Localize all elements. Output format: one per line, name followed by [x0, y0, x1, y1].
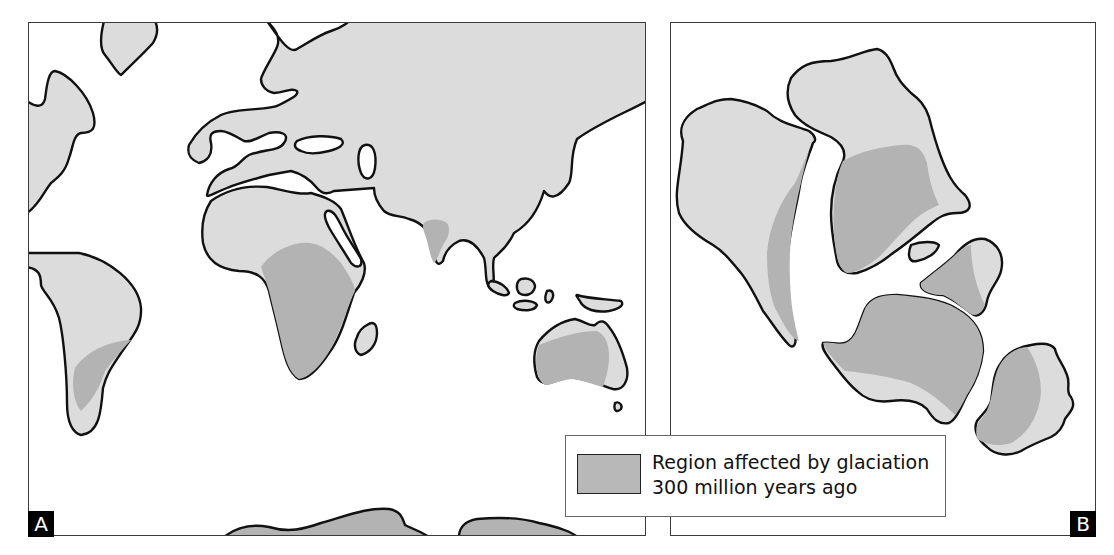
island-java	[514, 301, 537, 310]
tasmania	[614, 402, 621, 411]
greenland	[101, 23, 157, 75]
legend-line-1: Region affected by glaciation	[652, 450, 929, 475]
legend: Region affected by glaciation 300 millio…	[565, 435, 946, 517]
gondwana-madagascar	[909, 242, 939, 261]
legend-swatch-glaciation	[577, 454, 641, 494]
legend-line-2: 300 million years ago	[652, 475, 929, 500]
panel-a-present-day-map	[28, 22, 646, 536]
legend-text: Region affected by glaciation 300 millio…	[652, 450, 929, 500]
antarctica-east	[459, 518, 577, 536]
antarctica-west	[224, 509, 429, 536]
caspian-sea	[358, 145, 375, 179]
madagascar	[355, 323, 377, 355]
gondwana-south-america	[677, 99, 815, 347]
island-new-guinea	[576, 295, 622, 312]
panel-a-label: A	[28, 511, 54, 537]
island-borneo	[517, 278, 535, 295]
panel-b-label: B	[1070, 511, 1096, 537]
map-a-svg	[29, 23, 646, 536]
island-sulawesi	[545, 291, 553, 303]
north-america	[29, 71, 95, 213]
island-sumatra	[488, 281, 509, 295]
africa-glaciation	[261, 243, 355, 379]
